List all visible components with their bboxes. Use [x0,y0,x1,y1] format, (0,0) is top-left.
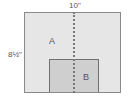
region-a-label: A [49,37,55,46]
height-label: 8½" [8,51,22,59]
region-b-label: B [83,73,89,82]
width-label: 10" [69,2,81,10]
center-dashed-line [73,12,75,93]
